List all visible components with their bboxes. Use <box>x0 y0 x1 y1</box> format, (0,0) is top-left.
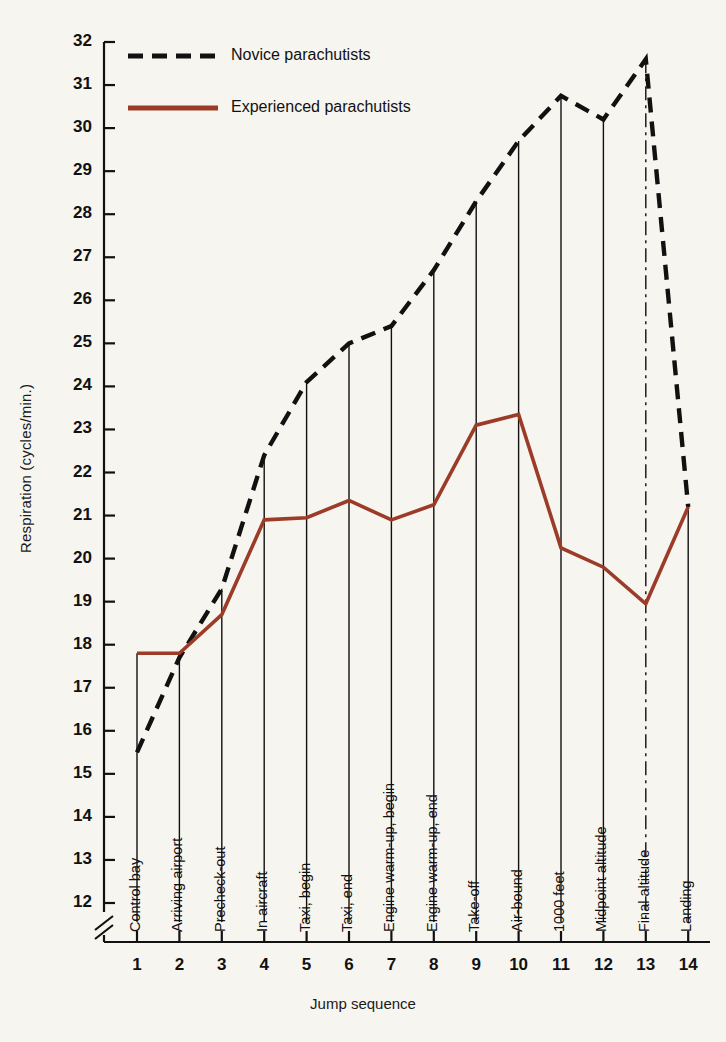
data-series <box>137 59 688 752</box>
y-tick-label-25: 25 <box>52 332 92 352</box>
y-tick-label-13: 13 <box>52 849 92 869</box>
x-tick-label-1: 1 <box>117 955 157 975</box>
category-label-7: Engine warm-up, begin <box>381 783 397 932</box>
y-tick-label-29: 29 <box>52 160 92 180</box>
category-label-5: Taxi, begin <box>297 863 313 932</box>
category-label-4: In aircraft <box>254 872 270 932</box>
x-tick-label-9: 9 <box>456 955 496 975</box>
plot-area <box>0 0 726 1042</box>
series-line-novice <box>137 59 688 752</box>
y-tick-label-18: 18 <box>52 634 92 654</box>
y-tick-label-24: 24 <box>52 375 92 395</box>
category-label-1: Control bay <box>127 858 143 932</box>
x-tick-label-13: 13 <box>626 955 666 975</box>
y-tick-label-30: 30 <box>52 117 92 137</box>
y-tick-label-14: 14 <box>52 806 92 826</box>
axes <box>95 42 710 942</box>
y-tick-label-26: 26 <box>52 289 92 309</box>
y-axis-break-icon <box>95 903 113 942</box>
category-label-8: Engine warm-up, end <box>424 794 440 932</box>
y-tick-label-20: 20 <box>52 548 92 568</box>
x-tick-label-6: 6 <box>329 955 369 975</box>
x-tick-label-3: 3 <box>202 955 242 975</box>
legend-swatches <box>128 56 218 108</box>
y-tick-label-17: 17 <box>52 677 92 697</box>
y-tick-label-16: 16 <box>52 720 92 740</box>
y-tick-label-32: 32 <box>52 31 92 51</box>
category-label-10: Air-bound <box>509 869 525 932</box>
x-tick-label-10: 10 <box>499 955 539 975</box>
y-tick-label-23: 23 <box>52 418 92 438</box>
respiration-jump-sequence-chart: Respiration (cycles/min.) Jump sequence … <box>0 0 726 1042</box>
x-tick-label-4: 4 <box>244 955 284 975</box>
category-label-14: Landing <box>678 880 694 932</box>
series-line-experienced <box>137 414 688 653</box>
category-drop-lines <box>137 59 688 922</box>
y-tick-label-31: 31 <box>52 74 92 94</box>
x-tick-label-14: 14 <box>668 955 708 975</box>
y-tick-label-28: 28 <box>52 203 92 223</box>
y-tick-label-27: 27 <box>52 246 92 266</box>
y-tick-label-15: 15 <box>52 763 92 783</box>
category-label-12: Midpoint altitude <box>593 826 609 932</box>
y-tick-label-21: 21 <box>52 505 92 525</box>
y-tick-label-12: 12 <box>52 892 92 912</box>
y-tick-label-22: 22 <box>52 462 92 482</box>
category-label-2: Arriving airport <box>169 838 185 932</box>
category-label-9: Take-off <box>466 881 482 932</box>
x-tick-label-8: 8 <box>414 955 454 975</box>
category-label-11: 1000 feet <box>551 872 567 932</box>
legend-label-novice: Novice parachutists <box>231 46 371 64</box>
category-label-13: Final altitude <box>636 850 652 932</box>
x-tick-label-5: 5 <box>287 955 327 975</box>
category-label-6: Taxi, end <box>339 874 355 932</box>
y-tick-label-19: 19 <box>52 591 92 611</box>
x-tick-label-11: 11 <box>541 955 581 975</box>
category-label-3: Precheck-out <box>212 847 228 932</box>
x-tick-label-7: 7 <box>371 955 411 975</box>
legend-label-experienced: Experienced parachutists <box>231 98 411 116</box>
x-tick-label-2: 2 <box>159 955 199 975</box>
x-tick-label-12: 12 <box>583 955 623 975</box>
